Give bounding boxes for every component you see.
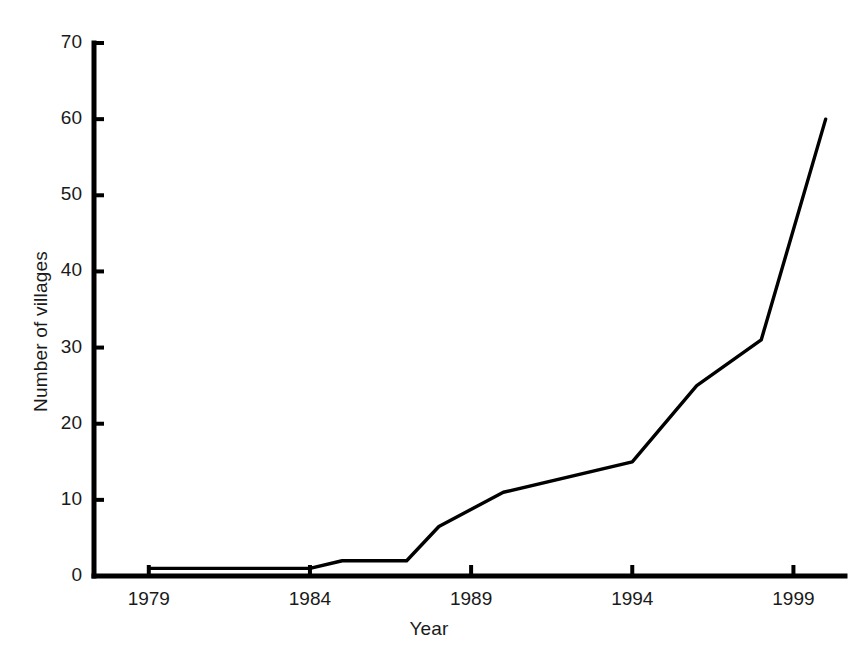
- line-chart-plot: [0, 0, 858, 663]
- x-tick-label: 1999: [748, 588, 838, 610]
- x-axis-title: Year: [0, 618, 858, 640]
- y-axis-title: Number of villages: [26, 0, 56, 663]
- data-series-line: [149, 119, 826, 568]
- x-tick-label: 1994: [587, 588, 677, 610]
- x-tick-label: 1979: [104, 588, 194, 610]
- x-tick-label: 1989: [426, 588, 516, 610]
- x-tick-label: 1984: [265, 588, 355, 610]
- chart-figure: 010203040506070 19791984198919941999 Num…: [0, 0, 858, 663]
- axis-lines: [94, 43, 845, 576]
